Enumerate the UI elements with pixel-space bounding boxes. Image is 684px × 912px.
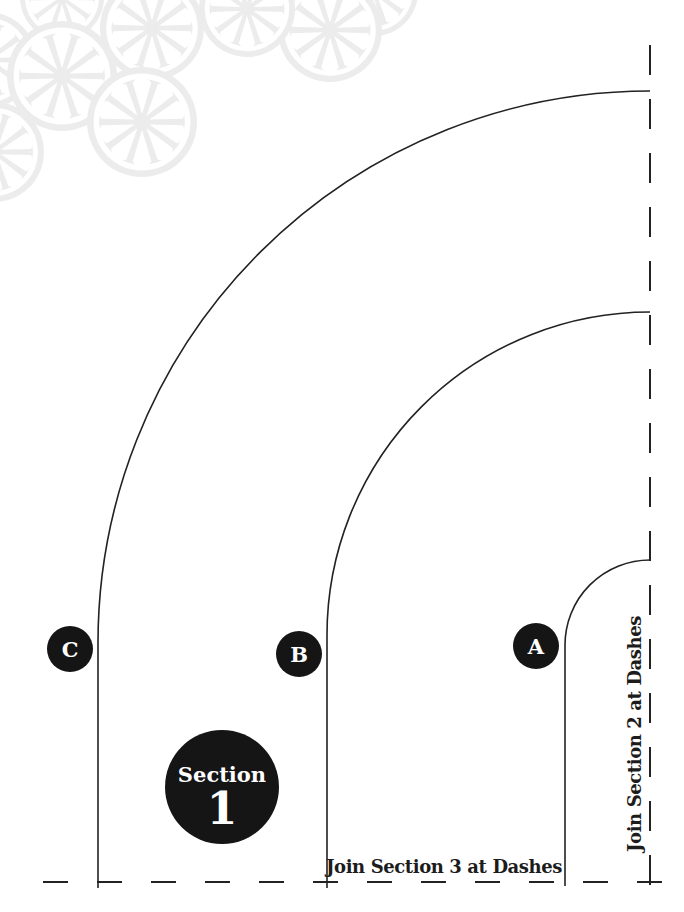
point-badge-b: B bbox=[276, 631, 322, 677]
section-badge-number: 1 bbox=[207, 783, 238, 834]
point-badge-c-label: C bbox=[62, 637, 79, 662]
pattern-sheet-page: C B A Section 1 Join Section 3 at Dashes… bbox=[0, 0, 684, 912]
cut-line-b-curve bbox=[327, 312, 650, 888]
join-note-bottom: Join Section 3 at Dashes bbox=[324, 856, 562, 877]
point-badge-a-label: A bbox=[527, 634, 545, 659]
join-note-right: Join Section 2 at Dashes bbox=[624, 616, 645, 854]
point-badge-c: C bbox=[47, 626, 93, 672]
pattern-sheet-canvas: C B A Section 1 Join Section 3 at Dashes… bbox=[0, 0, 684, 912]
point-badge-a: A bbox=[513, 623, 559, 669]
pinwheel-pattern-cluster bbox=[0, 0, 418, 202]
section-badge: Section 1 bbox=[165, 730, 279, 844]
point-badge-b-label: B bbox=[290, 642, 308, 667]
